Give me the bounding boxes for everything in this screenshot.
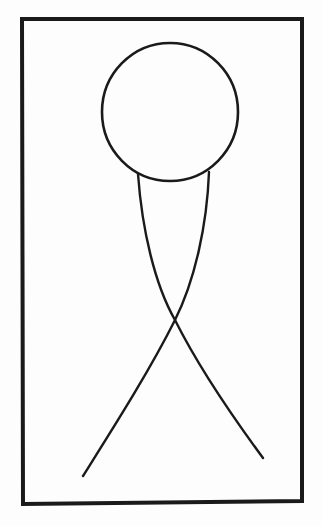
drawing-canvas xyxy=(0,0,322,526)
leg-left-to-right xyxy=(138,174,263,458)
frame-border xyxy=(22,19,302,504)
leg-right-to-left xyxy=(83,172,209,476)
head-circle xyxy=(102,43,238,181)
stick-figure-drawing xyxy=(0,0,322,526)
